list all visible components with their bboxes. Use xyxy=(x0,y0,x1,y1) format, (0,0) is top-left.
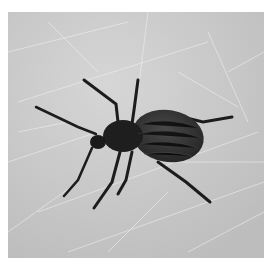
beetle-photo xyxy=(8,12,264,258)
beetle-illustration xyxy=(8,12,264,258)
beetle-thorax xyxy=(103,120,143,152)
beetle-head xyxy=(90,135,106,149)
